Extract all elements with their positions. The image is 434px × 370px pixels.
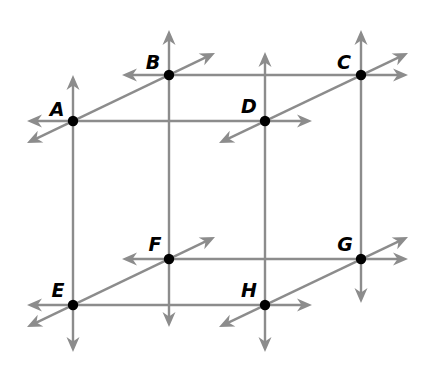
point-label-g: G bbox=[337, 235, 353, 254]
point-h bbox=[260, 300, 270, 310]
point-label-d: D bbox=[241, 97, 257, 116]
points-layer bbox=[68, 70, 366, 310]
point-g bbox=[356, 254, 366, 264]
cube-lines-diagram: A B C D E F G H bbox=[0, 0, 434, 370]
point-label-e: E bbox=[52, 281, 65, 300]
point-label-b: B bbox=[146, 53, 160, 72]
point-c bbox=[356, 70, 366, 80]
point-d bbox=[260, 116, 270, 126]
point-label-f: F bbox=[149, 235, 162, 254]
point-e bbox=[68, 300, 78, 310]
point-a bbox=[68, 116, 78, 126]
point-b bbox=[164, 70, 174, 80]
lines-layer bbox=[27, 30, 408, 352]
point-label-a: A bbox=[50, 100, 65, 119]
point-label-c: C bbox=[337, 53, 351, 72]
point-f bbox=[164, 254, 174, 264]
point-label-h: H bbox=[241, 281, 257, 300]
diagram-canvas bbox=[0, 0, 434, 370]
